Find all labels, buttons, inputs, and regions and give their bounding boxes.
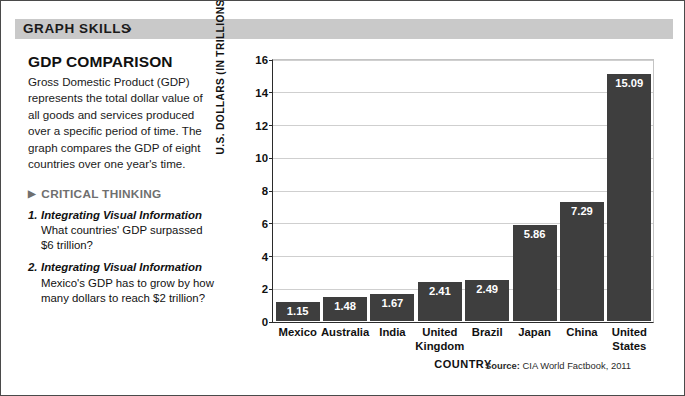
y-tick-mark [269,60,273,61]
question-body: Mexico's GDP has to grow by how many dol… [41,277,214,304]
bar-value-label: 2.41 [418,285,462,297]
question-number: 1. [28,208,41,254]
question-text: Integrating Visual Information What coun… [41,208,214,254]
bar-column[interactable]: 5.86Japan [513,60,557,321]
bar-column[interactable]: 1.67India [370,60,414,321]
bar-column[interactable]: 2.49Brazil [465,60,509,321]
question-text: Integrating Visual Information Mexico's … [41,260,214,306]
bar-value-label: 1.15 [276,305,320,317]
bar-value-label: 5.86 [513,228,557,240]
question-number: 2. [28,260,41,306]
y-tick-mark [269,125,273,126]
bar-column[interactable]: 15.09United States [607,60,651,321]
question-item: 1. Integrating Visual Information What c… [28,208,214,254]
bar[interactable]: 2.41 [418,282,462,321]
question-lead: Integrating Visual Information [41,261,202,273]
bar-value-label: 2.49 [465,283,509,295]
section-banner-label: GRAPH SKILLS [23,21,131,36]
triangle-right-icon: ▶ [28,189,36,199]
y-tick-label: 10 [255,152,268,164]
source-text: CIA World Factbook, 2011 [520,360,631,371]
left-text-column: GDP COMPARISON Gross Domestic Product (G… [28,53,214,306]
bar-value-label: 1.48 [323,300,367,312]
bar-column[interactable]: 2.41United Kingdom [418,60,462,321]
bar-value-label: 1.67 [370,297,414,309]
y-tick-label: 4 [262,251,268,263]
bar-value-label: 15.09 [607,77,651,89]
y-tick-mark [269,92,273,93]
y-tick-mark [269,322,273,323]
y-tick-label: 2 [262,283,268,295]
source-note: Source: CIA World Factbook, 2011 [485,360,631,371]
bar-series: 1.15Mexico1.48Australia1.67India2.41Unit… [274,60,653,321]
y-tick-label: 12 [255,120,268,132]
y-tick-mark [269,223,273,224]
y-tick-mark [269,191,273,192]
bar[interactable]: 1.15 [276,302,320,321]
bar-column[interactable]: 7.29China [560,60,604,321]
bar[interactable]: 5.86 [513,225,557,321]
x-tick-label: United States [595,326,663,353]
y-tick-label: 8 [262,185,268,197]
bar[interactable]: 1.67 [370,294,414,321]
graph-skills-figure: GRAPH SKILLS › GDP COMPARISON Gross Dome… [0,0,685,396]
source-prefix: Source: [485,360,520,371]
y-tick-label: 16 [255,54,268,66]
critical-thinking-label: CRITICAL THINKING [41,187,161,201]
y-tick-mark [269,256,273,257]
bar[interactable]: 15.09 [607,74,651,321]
plot-area: 0246810121416 1.15Mexico1.48Australia1.6… [272,59,654,323]
y-tick-label: 14 [255,87,268,99]
bar-column[interactable]: 1.15Mexico [276,60,320,321]
bar-value-label: 7.29 [560,205,604,217]
bar-column[interactable]: 1.48Australia [323,60,367,321]
critical-thinking-heading: ▶ CRITICAL THINKING [28,187,214,201]
question-body: What countries' GDP surpassed $6 trillio… [41,224,203,251]
bar-chart: U.S. DOLLARS (IN TRILLIONS) 024681012141… [219,47,674,387]
description-paragraph: Gross Domestic Product (GDP) represents … [28,74,214,173]
y-axis-label: U.S. DOLLARS (IN TRILLIONS) [215,0,226,165]
bar[interactable]: 7.29 [560,202,604,321]
question-item: 2. Integrating Visual Information Mexico… [28,260,214,306]
y-tick-mark [269,289,273,290]
bar[interactable]: 1.48 [323,297,367,321]
chevron-right-icon: › [127,20,132,36]
question-lead: Integrating Visual Information [41,209,202,221]
y-tick-label: 6 [262,218,268,230]
bar[interactable]: 2.49 [465,280,509,321]
y-tick-mark [269,158,273,159]
page-title: GDP COMPARISON [28,53,214,71]
